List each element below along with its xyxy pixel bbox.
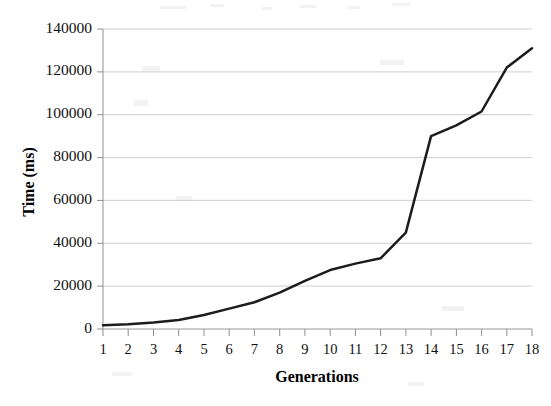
y-tick-label: 60000 (53, 190, 92, 207)
x-tick-label: 8 (276, 341, 283, 357)
x-tick-label: 10 (323, 341, 338, 357)
y-tickmarks (97, 29, 103, 329)
y-tick-labels: 140000 120000 100000 80000 60000 40000 2… (46, 19, 93, 336)
data-series-line (103, 48, 532, 325)
chart-container: 140000 120000 100000 80000 60000 40000 2… (0, 0, 551, 406)
x-axis-title: Generations (275, 368, 359, 385)
y-tick-label: 80000 (53, 147, 92, 164)
line-chart: 140000 120000 100000 80000 60000 40000 2… (0, 0, 551, 406)
x-tick-label: 5 (200, 341, 207, 357)
y-gridlines (103, 29, 532, 286)
x-tick-label: 18 (525, 341, 540, 357)
x-tick-labels: 1 2 3 4 5 6 7 8 9 10 11 12 13 14 15 16 1… (99, 341, 539, 357)
x-tick-label: 2 (125, 341, 132, 357)
y-tick-label: 120000 (46, 61, 93, 78)
x-tick-label: 3 (150, 341, 157, 357)
y-axis-title: Time (ms) (20, 147, 38, 216)
x-tick-label: 16 (474, 341, 489, 357)
x-tick-label: 13 (399, 341, 414, 357)
x-tick-label: 14 (424, 341, 439, 357)
y-tick-label: 140000 (46, 19, 93, 36)
x-tick-label: 12 (373, 341, 388, 357)
x-tick-label: 17 (500, 341, 515, 357)
y-tick-label: 0 (84, 319, 92, 336)
y-tick-label: 20000 (53, 276, 92, 293)
x-tick-label: 9 (301, 341, 308, 357)
x-tick-label: 1 (99, 341, 106, 357)
y-tick-label: 40000 (53, 233, 92, 250)
x-tick-label: 7 (251, 341, 258, 357)
x-tickmarks (103, 329, 532, 336)
x-tick-label: 11 (348, 341, 362, 357)
x-tick-label: 4 (175, 341, 183, 357)
x-tick-label: 15 (449, 341, 464, 357)
x-tick-label: 6 (226, 341, 233, 357)
y-tick-label: 100000 (46, 104, 93, 121)
